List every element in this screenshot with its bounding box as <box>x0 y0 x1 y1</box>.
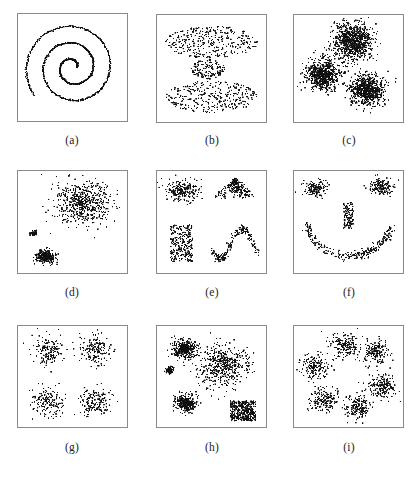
scatter-panel-g <box>17 325 128 428</box>
panel-label-c: (c) <box>329 134 369 146</box>
panel-label-g: (g) <box>52 441 92 453</box>
scatter-panel-f <box>293 170 404 274</box>
scatter-panel-b <box>156 14 267 123</box>
figure-panel-grid: (a)(b)(c)(d)(e)(f)(g)(h)(i) <box>0 0 419 483</box>
scatter-canvas-f <box>294 171 403 273</box>
scatter-panel-h <box>156 325 267 428</box>
scatter-canvas-a <box>18 14 127 121</box>
panel-label-a: (a) <box>52 134 92 146</box>
scatter-canvas-b <box>157 15 266 122</box>
scatter-canvas-i <box>294 326 403 427</box>
scatter-panel-c <box>293 14 404 123</box>
panel-label-b: (b) <box>192 134 232 146</box>
panel-label-f: (f) <box>329 286 369 298</box>
scatter-panel-d <box>17 170 128 274</box>
scatter-canvas-d <box>18 171 127 273</box>
scatter-panel-a <box>17 13 128 122</box>
panel-label-d: (d) <box>52 286 92 298</box>
scatter-panel-e <box>156 170 267 274</box>
panel-label-i: (i) <box>329 441 369 453</box>
scatter-canvas-c <box>294 15 403 122</box>
scatter-canvas-g <box>18 326 127 427</box>
scatter-panel-i <box>293 325 404 428</box>
scatter-canvas-e <box>157 171 266 273</box>
panel-label-h: (h) <box>192 441 232 453</box>
scatter-canvas-h <box>157 326 266 427</box>
panel-label-e: (e) <box>192 286 232 298</box>
